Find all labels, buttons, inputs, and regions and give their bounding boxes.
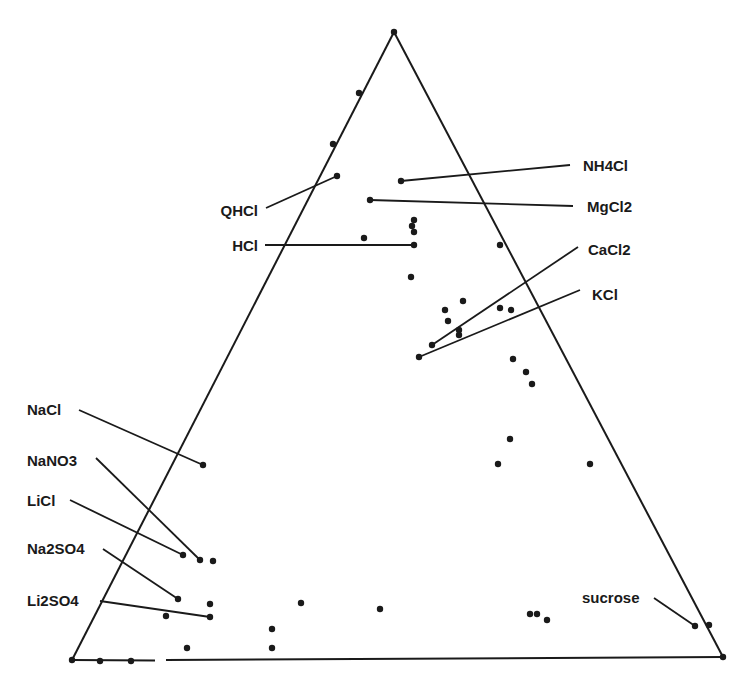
data-point <box>408 274 414 280</box>
data-point <box>180 552 186 558</box>
data-point <box>409 223 415 229</box>
data-point <box>495 461 501 467</box>
data-point <box>587 461 593 467</box>
data-point <box>534 611 540 617</box>
leader-line-nh4cl <box>401 165 570 181</box>
data-point <box>507 436 513 442</box>
label-cacl2: CaCl2 <box>588 241 631 258</box>
data-point <box>377 606 383 612</box>
data-point <box>269 645 275 651</box>
data-point <box>411 217 417 223</box>
data-point <box>523 369 529 375</box>
data-point <box>128 658 134 664</box>
data-point <box>442 307 448 313</box>
compound-labels: NH4ClMgCl2QHClHClCaCl2KClNaClNaNO3LiClNa… <box>27 157 640 609</box>
leader-line-li2so4 <box>100 601 210 617</box>
label-li2so4: Li2SO4 <box>27 592 79 609</box>
label-sucrose: sucrose <box>582 589 640 606</box>
data-point <box>330 141 336 147</box>
label-qhcl: QHCl <box>221 202 259 219</box>
data-point <box>184 645 190 651</box>
data-point <box>445 318 451 324</box>
label-na2so4: Na2SO4 <box>27 540 85 557</box>
data-point <box>210 558 216 564</box>
data-point <box>544 617 550 623</box>
data-point <box>720 654 726 660</box>
leader-line-na2so4 <box>103 549 178 599</box>
data-point <box>411 242 417 248</box>
data-point <box>175 596 181 602</box>
data-point <box>361 235 367 241</box>
leader-line-qhcl <box>266 176 337 208</box>
right-edge <box>394 32 723 657</box>
leader-line-cacl2 <box>432 247 578 345</box>
leader-line-nano3 <box>96 458 200 560</box>
data-point <box>200 462 206 468</box>
data-point <box>460 298 466 304</box>
label-nano3: NaNO3 <box>27 452 77 469</box>
data-point <box>269 626 275 632</box>
ternary-diagram: NH4ClMgCl2QHClHClCaCl2KClNaClNaNO3LiClNa… <box>0 0 746 679</box>
leader-lines <box>70 165 695 626</box>
data-point <box>334 173 340 179</box>
label-kcl: KCl <box>592 286 618 303</box>
data-point <box>391 29 397 35</box>
data-point <box>356 90 362 96</box>
data-point <box>416 354 422 360</box>
bottom-edge <box>166 657 723 660</box>
data-points <box>69 29 726 664</box>
data-point <box>706 622 712 628</box>
leader-line-nacl <box>79 410 203 465</box>
data-point <box>497 242 503 248</box>
left-edge <box>72 32 394 660</box>
triangle-edges <box>72 32 723 661</box>
data-point <box>510 356 516 362</box>
data-point <box>69 657 75 663</box>
data-point <box>398 178 404 184</box>
data-point <box>527 611 533 617</box>
label-hcl: HCl <box>232 237 258 254</box>
data-point <box>497 305 503 311</box>
data-point <box>429 342 435 348</box>
label-nacl: NaCl <box>27 401 61 418</box>
label-licl: LiCl <box>27 492 55 509</box>
bottom-edge <box>72 660 155 661</box>
data-point <box>298 600 304 606</box>
data-point <box>367 197 373 203</box>
data-point <box>163 613 169 619</box>
leader-line-mgcl2 <box>370 200 573 206</box>
data-point <box>207 601 213 607</box>
data-point <box>692 623 698 629</box>
data-point <box>197 557 203 563</box>
data-point <box>207 614 213 620</box>
data-point <box>508 307 514 313</box>
label-mgcl2: MgCl2 <box>587 198 632 215</box>
data-point <box>529 381 535 387</box>
data-point <box>97 658 103 664</box>
data-point <box>411 229 417 235</box>
data-point <box>456 332 462 338</box>
label-nh4cl: NH4Cl <box>583 157 628 174</box>
leader-line-sucrose <box>654 598 695 626</box>
